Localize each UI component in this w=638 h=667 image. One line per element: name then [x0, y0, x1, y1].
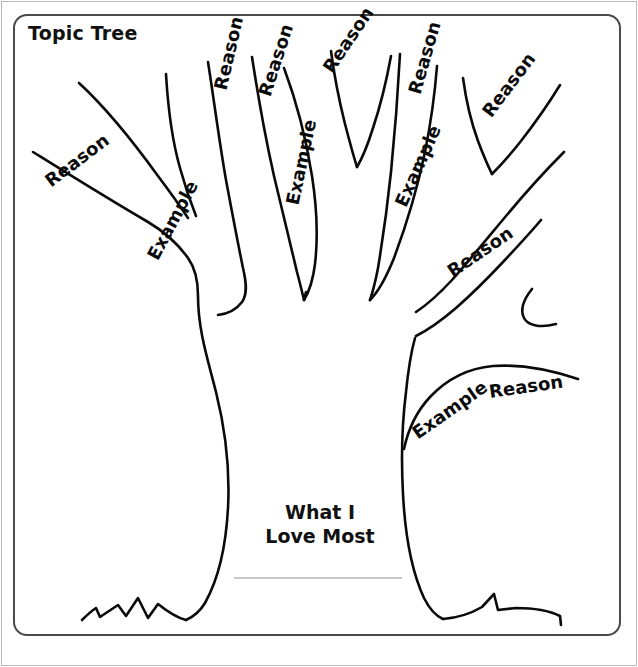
answer-rule[interactable] [234, 577, 402, 579]
branch-right-upper-left-edge [463, 78, 492, 174]
center-prompt-line1: What I [239, 501, 401, 525]
topic-tree-worksheet: Topic Tree [0, 0, 638, 667]
center-prompt: What I Love Most [239, 501, 401, 549]
twig-right-detached [522, 289, 556, 326]
branch-center-left [208, 62, 246, 315]
center-prompt-line2: Love Most [239, 525, 401, 549]
trunk-left-edge [33, 152, 229, 620]
trunk-right-edge [402, 338, 443, 619]
branch-right-lower-under-edge [416, 220, 541, 336]
tree-illustration [0, 0, 638, 667]
root-left-zigzag [82, 598, 186, 620]
branch-center-top-right-edge [357, 56, 391, 167]
root-right-zigzag [443, 594, 561, 625]
branch-center-right-left-edge [370, 54, 400, 300]
